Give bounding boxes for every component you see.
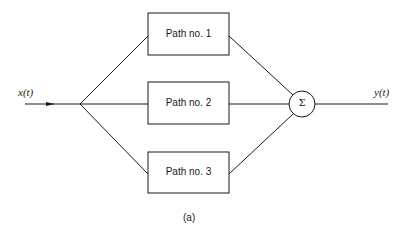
path-label-3: Path no. 3 (148, 166, 229, 177)
merge-line-1 (229, 36, 293, 95)
path-label-1: Path no. 1 (148, 28, 229, 39)
path-label-2: Path no. 2 (148, 97, 229, 108)
branch-line-1 (80, 36, 148, 104)
output-signal-label: y(t) (374, 86, 389, 98)
merge-line-3 (229, 114, 293, 174)
figure-caption: (a) (183, 212, 195, 223)
branch-line-3 (80, 104, 148, 174)
sigma-icon: Σ (289, 97, 315, 108)
input-arrow-icon (46, 102, 55, 106)
input-signal-label: x(t) (18, 86, 33, 98)
